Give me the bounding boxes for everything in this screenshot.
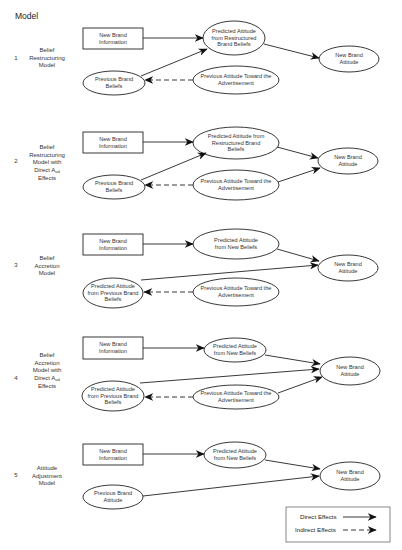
model-2-aad-text: Previous Attitude Toward the Advertiseme… <box>195 170 277 200</box>
model-2-label-subscript: ad <box>55 169 59 174</box>
model-5-previous-text: Previous Brand Attitude <box>88 485 138 509</box>
model-1-label: Belief Restructuring Model <box>17 47 77 70</box>
model-1-previous-text: Previous Brand Beliefs <box>89 71 139 95</box>
model-4-previous-text: Predicted Attitude from Previous Brand B… <box>85 381 141 411</box>
model-4-label-line: Direct Aad <box>17 375 77 384</box>
model-3-previous-text: Predicted Attitude from Previous Brand B… <box>85 278 141 308</box>
model-2-previous-text: Previous Brand Beliefs <box>89 175 139 199</box>
model-1-predicted-text: Predicted Attitude from Restructured Bra… <box>206 21 262 55</box>
model-3-outcome-text: New Brand Attitude <box>325 255 371 281</box>
model-3-label-line: Accretion <box>17 263 77 271</box>
model-4-info-text: New Brand Information <box>87 337 139 359</box>
model-5-edge-previous-outcome <box>143 476 319 496</box>
model-2-label: Belief Restructuring Model with Direct A… <box>17 144 77 183</box>
model-3-label: Belief Accretion Model <box>17 255 77 278</box>
model-1-edge-predicted-outcome <box>264 44 319 58</box>
model-4-edge-previous-outcome <box>140 369 319 383</box>
model-4-edge-predicted-outcome <box>265 355 320 364</box>
model-5-outcome-text: New Brand Attitude <box>327 462 373 490</box>
model-4-outcome-text: New Brand Attitude <box>327 357 373 385</box>
model-3-label-line: Belief <box>17 255 77 263</box>
model-2-label-line: Effects <box>17 175 77 183</box>
model-1-label-line: Restructuring <box>17 55 77 63</box>
model-2-edge-aad-outcome <box>278 168 320 182</box>
model-2-info-text: New Brand Information <box>87 132 139 153</box>
model-5-edge-predicted-outcome <box>265 460 320 469</box>
model-3-label-line: Model <box>17 270 77 278</box>
model-4-label-line: Model with <box>17 367 77 375</box>
model-4-edge-aad-outcome <box>278 377 322 393</box>
model-2-label-text: Direct A <box>34 167 55 173</box>
model-2-label-line: Direct Aad <box>17 167 77 176</box>
model-5-label-line: Attitude <box>17 465 77 473</box>
model-4-predicted-text: Predicted Attitude from New Beliefs <box>207 338 263 362</box>
model-2-outcome-text: New Brand Attitude <box>325 148 371 174</box>
model-4-label: Belief Accretion Model with Direct Aad E… <box>17 352 77 391</box>
page-title: Model <box>15 11 38 21</box>
model-5-label: Attitude Adjustment Model <box>17 465 77 488</box>
model-1-outcome-text: New Brand Attitude <box>326 46 372 72</box>
model-1-label-line: Belief <box>17 47 77 55</box>
model-2-label-line: Model with <box>17 159 77 167</box>
model-2-edge-predicted-outcome <box>277 147 318 158</box>
model-5-label-line: Adjustment <box>17 473 77 481</box>
legend-direct-label: Direct Effects <box>300 513 337 520</box>
model-3-predicted-text: Predicted Attitude from New Beliefs <box>208 229 264 259</box>
model-4-label-line: Belief <box>17 352 77 360</box>
model-1-aad-text: Previous Attitude Toward the Advertiseme… <box>195 66 277 94</box>
legend-indirect-label: Indirect Effects <box>295 526 336 533</box>
model-3-aad-text: Previous Attitude Toward the Advertiseme… <box>195 278 277 306</box>
model-2-label-line: Restructuring <box>17 152 77 160</box>
model-5-label-line: Model <box>17 480 77 488</box>
model-4-label-text: Direct A <box>34 375 55 381</box>
model-3-info-text: New Brand Information <box>87 234 139 255</box>
model-1-label-line: Model <box>17 62 77 70</box>
model-4-label-line: Accretion <box>17 360 77 368</box>
model-5-info-text: New Brand Information <box>87 444 139 465</box>
model-4-label-line: Effects <box>17 383 77 391</box>
model-1-info-text: New Brand Information <box>87 28 139 49</box>
model-2-predicted-text: Predicted Attitude from Restructured Bra… <box>205 127 267 159</box>
model-4-label-subscript: ad <box>55 377 59 382</box>
model-4-aad-text: Previous Attitude Toward the Advertiseme… <box>195 385 277 409</box>
model-3-edge-predicted-outcome <box>277 249 319 261</box>
model-2-label-line: Belief <box>17 144 77 152</box>
model-5-predicted-text: Predicted Attitude from New Beliefs <box>207 442 263 468</box>
